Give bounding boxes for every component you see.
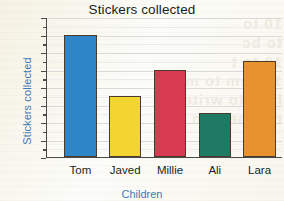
bar-ali bbox=[199, 113, 231, 157]
y-axis-label: Stickers collected bbox=[21, 41, 33, 161]
bar-javed bbox=[109, 96, 141, 157]
x-category-label-millie: Millie bbox=[148, 164, 193, 176]
x-axis-label: Children bbox=[0, 188, 284, 200]
x-category-label-tom: Tom bbox=[58, 164, 103, 176]
bar-lara bbox=[243, 61, 275, 157]
bar-millie bbox=[154, 70, 186, 158]
x-category-label-lara: Lara bbox=[237, 164, 282, 176]
bar-chart-figure: 10 to to bc 10 to t 102 cm to m how to w… bbox=[0, 0, 284, 201]
bars-group bbox=[46, 18, 282, 158]
bar-tom bbox=[64, 35, 96, 158]
x-category-label-javed: Javed bbox=[103, 164, 148, 176]
x-category-label-ali: Ali bbox=[192, 164, 237, 176]
y-tick-major bbox=[41, 158, 46, 159]
chart-title: Stickers collected bbox=[0, 2, 284, 17]
plot-area: 01020304050607080 TomJavedMillieAliLara bbox=[46, 18, 282, 158]
